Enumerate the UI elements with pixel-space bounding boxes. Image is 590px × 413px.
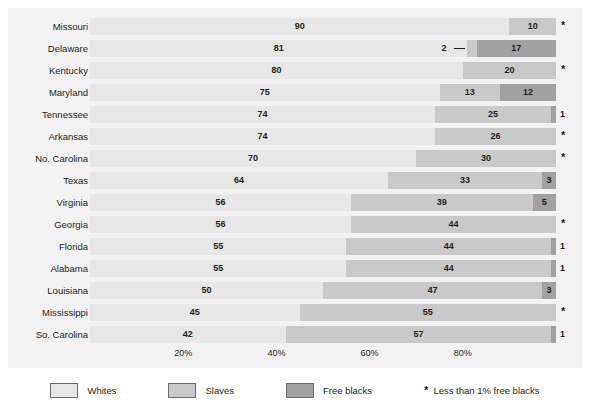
plot-panel: Missouri9010*Delaware81217Kentucky8020*M… — [8, 8, 582, 368]
less-than-one-percent-marker: * — [561, 128, 565, 145]
segment-whites-value: 45 — [90, 304, 300, 321]
less-than-one-percent-marker: * — [561, 150, 565, 167]
bar-track: 4257 — [90, 326, 556, 343]
segment-whites-value: 42 — [90, 326, 286, 343]
segment-slaves-value: 13 — [440, 84, 501, 101]
bar-track: 7426 — [90, 128, 556, 145]
segment-slaves-value: 44 — [346, 260, 551, 277]
bar-track: 5644 — [90, 216, 556, 233]
bar-row: Delaware81217 — [8, 40, 582, 57]
segment-whites-value: 80 — [90, 62, 463, 79]
bar-row-label: No. Carolina — [8, 150, 88, 167]
bar-row-label: Mississippi — [8, 304, 88, 321]
segment-whites-value: 90 — [90, 18, 509, 35]
bar-row: Georgia5644* — [8, 216, 582, 233]
bar-row-label: So. Carolina — [8, 326, 88, 343]
bar-row: Tennessee74251 — [8, 106, 582, 123]
bar-track: 9010 — [90, 18, 556, 35]
x-axis-tick-label: 20% — [174, 348, 192, 358]
bar-rows-container: Missouri9010*Delaware81217Kentucky8020*M… — [8, 18, 582, 348]
x-axis-tick-label: 80% — [454, 348, 472, 358]
less-than-one-percent-marker: * — [561, 18, 565, 35]
segment-whites-value: 56 — [90, 216, 351, 233]
bar-row: Louisiana50473 — [8, 282, 582, 299]
x-axis: 20%40%60%80% — [90, 348, 556, 362]
bar-row: No. Carolina7030* — [8, 150, 582, 167]
segment-slaves-value: 39 — [351, 194, 533, 211]
segment-whites-value: 81 — [90, 40, 467, 57]
bar-row: Alabama55441 — [8, 260, 582, 277]
segment-slaves-value: 20 — [463, 62, 556, 79]
segment-whites-value: 74 — [90, 106, 435, 123]
segment-free-blacks-outside-value: 1 — [560, 238, 565, 255]
bar-row: Arkansas7426* — [8, 128, 582, 145]
segment-whites-value: 55 — [90, 238, 346, 255]
bar-row: Texas64333 — [8, 172, 582, 189]
bar-track: 7425 — [90, 106, 556, 123]
bar-row: Missouri9010* — [8, 18, 582, 35]
segment-free-blacks — [551, 326, 556, 343]
legend-item-label: Free blacks — [323, 385, 372, 396]
bar-row-label: Missouri — [8, 18, 88, 35]
bar-row-label: Georgia — [8, 216, 88, 233]
bar-row-label: Florida — [8, 238, 88, 255]
segment-slaves-value: 57 — [286, 326, 552, 343]
bar-track: 5544 — [90, 260, 556, 277]
segment-free-blacks-value: 3 — [542, 282, 556, 299]
legend-item: Free blacks — [286, 383, 372, 398]
asterisk-icon: * — [424, 386, 428, 395]
bar-track: 56395 — [90, 194, 556, 211]
segment-slaves-value: 55 — [300, 304, 556, 321]
bar-row: Virginia56395 — [8, 194, 582, 211]
segment-slaves-callout-value: 2 — [441, 40, 446, 57]
bar-track: 7030 — [90, 150, 556, 167]
bar-row-label: Tennessee — [8, 106, 88, 123]
segment-slaves-value: 44 — [346, 238, 551, 255]
bar-row: Florida55441 — [8, 238, 582, 255]
bar-row-label: Louisiana — [8, 282, 88, 299]
legend-item-label: Slaves — [205, 385, 234, 396]
bar-row-label: Kentucky — [8, 62, 88, 79]
segment-free-blacks-outside-value: 1 — [560, 106, 565, 123]
x-axis-tick-label: 60% — [361, 348, 379, 358]
segment-slaves — [467, 40, 476, 57]
bar-row-label: Texas — [8, 172, 88, 189]
bar-track: 8020 — [90, 62, 556, 79]
segment-whites-value: 70 — [90, 150, 416, 167]
segment-slaves-value: 26 — [435, 128, 556, 145]
legend-swatch-icon — [50, 383, 78, 398]
legend-footnote-label: Less than 1% free blacks — [433, 385, 539, 396]
bar-track: 5544 — [90, 238, 556, 255]
segment-whites-value: 74 — [90, 128, 435, 145]
bar-track: 4555 — [90, 304, 556, 321]
callout-leader-line — [454, 48, 465, 49]
bar-track: 50473 — [90, 282, 556, 299]
segment-slaves-value: 10 — [509, 18, 556, 35]
segment-whites-value: 56 — [90, 194, 351, 211]
segment-whites-value: 64 — [90, 172, 388, 189]
bar-row-label: Delaware — [8, 40, 88, 57]
less-than-one-percent-marker: * — [561, 216, 565, 233]
bar-row: Mississippi4555* — [8, 304, 582, 321]
less-than-one-percent-marker: * — [561, 62, 565, 79]
segment-slaves-value: 25 — [435, 106, 552, 123]
less-than-one-percent-marker: * — [561, 304, 565, 321]
segment-whites-value: 75 — [90, 84, 440, 101]
segment-slaves-value: 30 — [416, 150, 556, 167]
segment-free-blacks — [551, 260, 556, 277]
legend-item: Slaves — [168, 383, 234, 398]
segment-slaves-value: 33 — [388, 172, 542, 189]
segment-slaves-value: 47 — [323, 282, 542, 299]
legend-swatch-icon — [168, 383, 196, 398]
bar-row-label: Maryland — [8, 84, 88, 101]
legend-item-label: Whites — [87, 385, 116, 396]
legend-swatch-icon — [286, 383, 314, 398]
segment-free-blacks — [551, 238, 556, 255]
legend-footnote: *Less than 1% free blacks — [424, 385, 539, 396]
segment-whites-value: 50 — [90, 282, 323, 299]
segment-slaves-value: 44 — [351, 216, 556, 233]
chart-legend: WhitesSlavesFree blacks*Less than 1% fre… — [8, 378, 582, 402]
x-axis-tick-label: 40% — [267, 348, 285, 358]
segment-free-blacks-value: 17 — [477, 40, 556, 57]
segment-free-blacks — [551, 106, 556, 123]
